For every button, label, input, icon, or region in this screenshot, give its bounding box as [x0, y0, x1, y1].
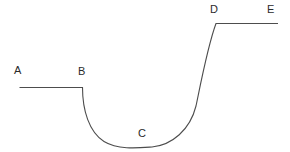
point-label-c: C [138, 128, 146, 139]
diagram-canvas: A B C D E [0, 0, 290, 152]
curve-path [20, 24, 279, 148]
point-label-e: E [267, 4, 274, 15]
point-label-d: D [210, 4, 218, 15]
point-label-b: B [78, 66, 85, 77]
point-label-a: A [14, 65, 21, 76]
